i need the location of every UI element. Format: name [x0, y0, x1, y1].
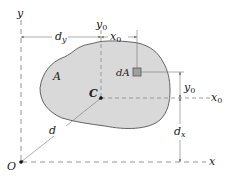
area-region: [40, 41, 170, 129]
label-origin: O: [7, 160, 16, 173]
centroid-point: [99, 96, 103, 100]
label-y-axis: y: [16, 7, 24, 20]
dim-d-line2: [21, 136, 54, 162]
label-dim-y0: y0: [183, 81, 195, 95]
label-dim-x0: x0: [110, 30, 121, 44]
label-dim-dx: dx: [174, 125, 186, 139]
origin-point: [19, 160, 23, 164]
label-y0-axis: y0: [95, 18, 107, 32]
label-x0-axis: x0: [211, 91, 222, 105]
label-x-axis: x: [209, 155, 216, 168]
parallel-axis-diagram: y x O C A dA y0 x0 dy x0 y0 dx d: [0, 0, 234, 178]
label-centroid: C: [89, 87, 98, 100]
element-dA: [133, 68, 141, 76]
label-dim-dy: dy: [55, 30, 67, 44]
label-dim-d: d: [49, 124, 56, 137]
label-dA: dA: [116, 67, 130, 78]
label-area: A: [52, 70, 61, 83]
